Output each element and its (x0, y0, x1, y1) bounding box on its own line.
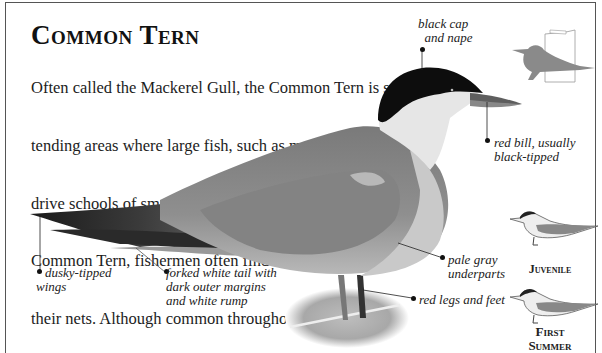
description-paragraph-bottom: darker gray than most other similar-size… (31, 312, 290, 353)
annotation-black-cap: black cap and nape (418, 17, 473, 45)
annotation-dot-cap (420, 47, 425, 52)
annotation-dot-bill (485, 138, 490, 143)
first-summer-tern-illustration (510, 289, 598, 323)
annotation-dot-legs (411, 296, 416, 301)
annotation-red-legs: red legs and feet (419, 293, 505, 307)
juvenile-tern-illustration (510, 212, 598, 245)
common-tern-illustration (0, 0, 602, 353)
caption-first-summer: First Summer (505, 325, 595, 353)
annotation-dusky-wings: dusky-tipped wings (36, 266, 111, 294)
annotation-red-bill: red bill, usually black-tipped (494, 136, 576, 164)
annotation-dot-underparts (440, 255, 445, 260)
annotation-pale-underparts: pale gray underparts (448, 253, 505, 281)
annotation-forked-tail: forked white tail with dark outer margin… (166, 266, 277, 308)
caption-juvenile: Juvenile (505, 262, 595, 276)
size-silhouette-icon (512, 30, 595, 82)
